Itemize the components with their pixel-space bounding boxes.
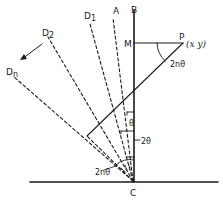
arrow-head-icon — [20, 54, 27, 60]
geometry-diagram: A B C D1 D2 Dn M P (x y) 2nθ θ 2θ 2nθ — [0, 0, 223, 200]
label-D1: D1 — [84, 11, 96, 23]
label-P: P — [179, 32, 185, 42]
label-D2: D2 — [42, 28, 54, 40]
label-2theta: 2θ — [141, 137, 151, 146]
label-A: A — [113, 6, 120, 16]
label-C: C — [130, 188, 136, 198]
label-theta: θ — [129, 119, 134, 128]
line-CDn — [13, 76, 133, 181]
label-M: M — [124, 39, 132, 49]
angle-arc-P — [157, 43, 165, 61]
line-CD2 — [48, 37, 133, 181]
line-P-diagonal — [87, 43, 183, 136]
label-Dn: Dn — [6, 67, 18, 79]
diagram-canvas: A B C D1 D2 Dn M P (x y) 2nθ θ 2θ 2nθ — [0, 0, 223, 200]
label-angle-P: 2nθ — [170, 60, 185, 69]
label-B: B — [131, 5, 137, 15]
label-2ntheta: 2nθ — [95, 168, 110, 177]
label-P-coords: (x y) — [186, 39, 207, 49]
